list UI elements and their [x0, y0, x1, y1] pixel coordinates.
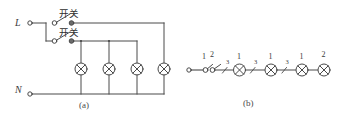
b-switch-contact-2[interactable]: [210, 68, 215, 73]
junction-dot-lamp2: [108, 40, 110, 42]
b-marker-seg-3: 3: [286, 58, 289, 65]
l-terminal-label: L: [15, 17, 21, 28]
b-source-terminal: [187, 68, 191, 72]
figure-canvas: L N 开关 开关 (a) 1 2 3 1 3 1 3 1 2 (b): [0, 0, 338, 120]
b-marker-lamp-4: 2: [322, 50, 326, 59]
switch-lower-left-contact[interactable]: [52, 39, 57, 44]
b-marker-lamp-3: 1: [300, 52, 304, 61]
caption-b: (b): [243, 98, 254, 108]
switch-lower-right-contact[interactable]: [69, 39, 74, 44]
b-marker-seg-1: 3: [226, 58, 229, 65]
switch-upper-label: 开关: [59, 6, 79, 20]
b-switch-blade-2[interactable]: [214, 65, 220, 69]
b-marker-switch-1: 1: [202, 52, 206, 61]
b-switch-contact-1[interactable]: [203, 68, 208, 73]
switch-lower-label: 开关: [59, 25, 79, 39]
n-terminal-label: N: [15, 84, 22, 95]
b-marker-seg-2: 3: [254, 58, 257, 65]
junction-dot-lamp1: [80, 40, 82, 42]
switch-upper-left-contact[interactable]: [52, 21, 57, 26]
n-terminal-node: [28, 92, 32, 96]
b-marker-lamp-1: 1: [237, 52, 241, 61]
b-marker-switch-2: 2: [210, 50, 214, 59]
b-marker-lamp-2: 1: [269, 52, 273, 61]
caption-a: (a): [79, 100, 89, 110]
l-terminal-node: [28, 21, 32, 25]
